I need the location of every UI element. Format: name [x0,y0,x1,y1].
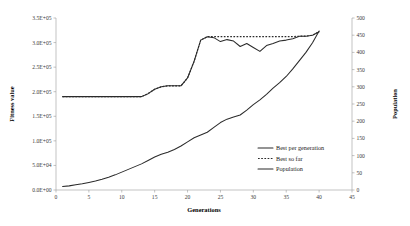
left-tick-label: 3.5E+05 [32,15,51,21]
x-tick-label: 0 [55,194,58,200]
right-tick-label: 300 [357,84,366,90]
x-tick-label: 15 [152,194,158,200]
x-tick-label: 40 [316,194,322,200]
right-tick-label: 400 [357,49,366,55]
left-tick-label: 2.5E+05 [32,64,51,70]
x-tick-label: 25 [218,194,224,200]
right-tick-label: 0 [357,187,360,193]
fitness-population-line-chart: 0.0E+005.0E+041.0E+051.5E+052.0E+052.5E+… [0,0,410,226]
y-axis-title: Fitness value [8,86,15,121]
x-tick-label: 20 [185,194,191,200]
x-axis-title: Generations [187,206,221,213]
right-tick-label: 50 [357,170,363,176]
right-tick-label: 250 [357,101,366,107]
series-line-best-per-generation [63,32,320,97]
right-tick-label: 450 [357,32,366,38]
legend-label-1: Best so far [276,155,302,162]
right-tick-label: 200 [357,118,366,124]
chart-legend: Best per generationBest so farPopulation [258,144,324,172]
series-line-population [63,31,320,186]
legend-label-2: Population [276,165,303,172]
right-tick-label: 150 [357,135,366,141]
x-tick-label: 35 [283,194,289,200]
x-tick-label: 30 [251,194,257,200]
x-tick-label: 5 [87,194,90,200]
left-tick-label: 3.0E+05 [32,40,51,46]
left-tick-label: 1.5E+05 [32,113,51,119]
x-axis-ticks: 051015202530354045 [55,190,355,200]
left-tick-label: 2.0E+05 [32,89,51,95]
series-line-best-so-far [63,32,320,97]
left-axis-ticks: 0.0E+005.0E+041.0E+051.5E+052.0E+052.5E+… [32,15,56,193]
left-tick-label: 0.0E+00 [32,187,51,193]
left-tick-label: 5.0E+04 [32,162,51,168]
y2-axis-title: Population [391,89,398,119]
right-tick-label: 350 [357,67,366,73]
right-tick-label: 500 [357,15,366,21]
x-tick-label: 10 [119,194,125,200]
chart-container: 0.0E+005.0E+041.0E+051.5E+052.0E+052.5E+… [0,0,410,226]
left-tick-label: 1.0E+05 [32,138,51,144]
x-tick-label: 45 [349,194,355,200]
series-group [63,31,320,186]
right-axis-ticks: 050100150200250300350400450500 [352,15,365,193]
legend-label-0: Best per generation [276,144,324,151]
right-tick-label: 100 [357,153,366,159]
